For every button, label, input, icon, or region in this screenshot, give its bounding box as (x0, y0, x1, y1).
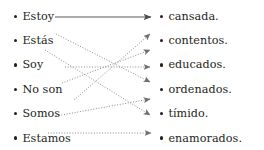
right-item-label: ordenados. (168, 84, 231, 95)
left-item-label: Estás (22, 35, 53, 46)
bullet-icon (14, 39, 17, 42)
matching-exercise: Estoy Estás Soy No son Somos Estamos Est… (0, 0, 264, 150)
list-item[interactable]: tímido. (160, 98, 264, 122)
list-item[interactable]: Estamos (14, 122, 80, 146)
list-item[interactable]: Soy (14, 49, 80, 73)
right-item-label: contentos. (168, 35, 228, 46)
connector-estamos-contentos (74, 34, 150, 100)
list-item[interactable]: Estáis (14, 146, 80, 150)
left-column: Estoy Estás Soy No son Somos Estamos Est… (14, 0, 80, 150)
list-item[interactable]: No son (14, 73, 80, 97)
bullet-icon (14, 112, 17, 115)
list-item[interactable]: enamorados. (160, 122, 264, 146)
bullet-icon (160, 39, 163, 42)
left-item-label: Soy (22, 59, 43, 70)
right-item-label: tímido. (168, 108, 208, 119)
right-item-label: enamorados. (168, 133, 242, 144)
list-item[interactable]: ordenados. (160, 73, 264, 97)
list-item[interactable]: Somos (14, 98, 80, 122)
bullet-icon (160, 15, 163, 18)
list-item[interactable]: contentos. (160, 24, 264, 48)
bullet-icon (160, 136, 163, 139)
bullet-icon (14, 63, 17, 66)
bullet-icon (160, 112, 163, 115)
left-item-label: Estamos (22, 133, 71, 144)
right-column: cansada. contentos. educados. ordenados.… (160, 0, 264, 150)
list-item[interactable]: Estás (14, 24, 80, 48)
list-item[interactable]: enfermo. (160, 146, 264, 150)
left-item-label: Estoy (22, 11, 54, 22)
bullet-icon (14, 15, 17, 18)
bullet-icon (160, 88, 163, 91)
bullet-icon (160, 63, 163, 66)
bullet-icon (14, 88, 17, 91)
bullet-icon (14, 136, 17, 139)
left-item-label: No son (22, 84, 62, 95)
right-item-label: cansada. (168, 11, 218, 22)
left-item-label: Somos (22, 108, 60, 119)
list-item[interactable]: cansada. (160, 0, 264, 24)
right-item-label: educados. (168, 59, 226, 70)
list-item[interactable]: Estoy (14, 0, 80, 24)
list-item[interactable]: educados. (160, 49, 264, 73)
